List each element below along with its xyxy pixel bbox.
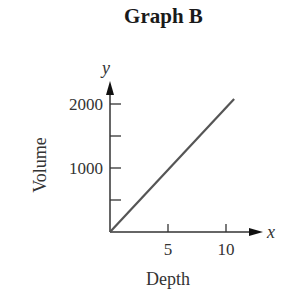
data-line	[110, 99, 234, 232]
x-tick-label: 10	[218, 240, 235, 259]
y-axis-label: Volume	[30, 137, 50, 193]
x-tick-label: 5	[164, 240, 173, 259]
x-axis-symbol: x	[266, 222, 275, 242]
y-tick-label: 1000	[69, 159, 103, 178]
y-axis-arrow-icon	[106, 81, 114, 95]
x-axis-arrow-icon	[249, 228, 263, 236]
line-chart: yx10002000510DepthVolume	[0, 0, 287, 301]
y-axis-symbol: y	[100, 58, 110, 78]
y-tick-label: 2000	[69, 95, 103, 114]
x-axis-label: Depth	[146, 269, 190, 289]
